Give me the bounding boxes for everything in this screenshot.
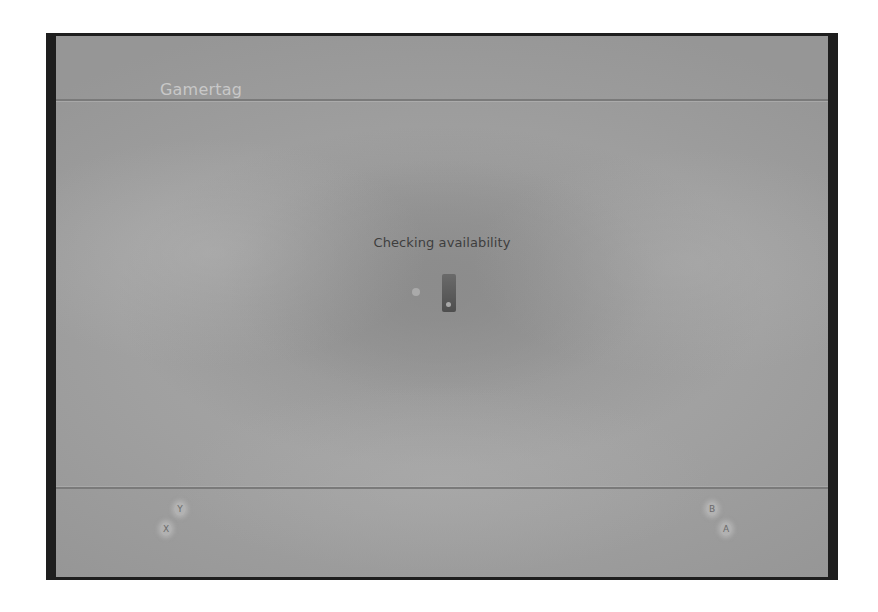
status-area: Checking availability [56, 232, 828, 251]
x-button-icon[interactable]: X [160, 522, 172, 536]
tv-frame: Gamertag Checking availability Y X B A [46, 33, 838, 580]
spinner-trail-icon [412, 288, 420, 296]
dashboard-screen: Gamertag Checking availability Y X B A [56, 36, 828, 577]
status-message: Checking availability [373, 235, 510, 250]
footer-bar: Y X B A [56, 487, 828, 577]
y-button-icon[interactable]: Y [174, 502, 186, 516]
a-button-icon[interactable]: A [720, 522, 732, 536]
spinner-dot-icon [446, 302, 451, 307]
loading-spinner-icon [442, 274, 456, 312]
b-button-icon[interactable]: B [706, 502, 718, 516]
page-title: Gamertag [160, 80, 242, 99]
header-bar: Gamertag [56, 36, 828, 101]
